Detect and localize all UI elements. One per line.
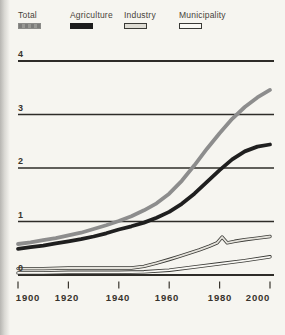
water-use-chart-figure: Total Agriculture Industry Municipality … <box>0 0 285 335</box>
x-axis-tick-1920: 1920 <box>51 292 83 303</box>
y-axis-tick-3: 3 <box>18 103 32 113</box>
x-axis-tick-2000: 2000 <box>242 292 274 303</box>
y-axis-tick-0: 0 <box>18 263 32 273</box>
y-axis-tick-1: 1 <box>18 210 32 220</box>
x-axis-tick-1980: 1980 <box>204 292 236 303</box>
y-axis-tick-2: 2 <box>18 156 32 166</box>
x-axis-tick-1960: 1960 <box>151 292 183 303</box>
x-axis-tick-1940: 1940 <box>102 292 134 303</box>
y-axis-tick-4: 4 <box>18 49 32 59</box>
x-axis-tick-1900: 1900 <box>12 292 44 303</box>
line-chart-plot-area <box>0 0 285 335</box>
